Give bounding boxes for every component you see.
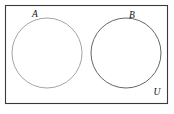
venn-diagram-figure: A B U — [0, 0, 174, 114]
set-b-label: B — [129, 10, 135, 20]
universe-rectangle — [6, 6, 168, 104]
universe-label: U — [154, 87, 162, 97]
set-a-label: A — [31, 9, 38, 19]
